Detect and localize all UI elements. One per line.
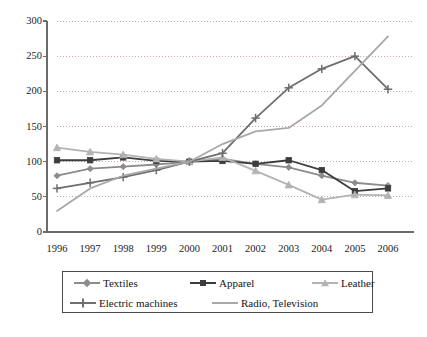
legend-row: TextilesApparelLeather <box>63 272 372 293</box>
legend-item-apparel[interactable]: Apparel <box>189 272 254 293</box>
legend-swatch-triangle-icon <box>311 277 339 289</box>
line-chart: 050100150200250300 199619971998199920002… <box>0 0 427 337</box>
legend-label: Apparel <box>219 277 254 289</box>
legend-swatch-diamond-icon <box>73 277 101 289</box>
legend-label: Electric machines <box>99 297 178 309</box>
chart-legend: TextilesApparelLeatherElectric machinesR… <box>62 271 373 313</box>
legend-label: Textiles <box>103 277 138 289</box>
legend-label: Leather <box>341 277 375 289</box>
legend-label: Radio, Television <box>241 297 318 309</box>
legend-swatch-square-icon <box>189 277 217 289</box>
legend-item-leather[interactable]: Leather <box>311 272 375 293</box>
legend-row: Electric machinesRadio, Television <box>63 292 372 313</box>
x-axis-tick-label: 2006 <box>368 243 408 255</box>
legend-item-electric-machines[interactable]: Electric machines <box>69 292 178 313</box>
legend-swatch-none-icon <box>211 297 239 309</box>
legend-item-textiles[interactable]: Textiles <box>73 272 138 293</box>
legend-item-radio-television[interactable]: Radio, Television <box>211 292 318 313</box>
legend-swatch-plus-icon <box>69 297 97 309</box>
